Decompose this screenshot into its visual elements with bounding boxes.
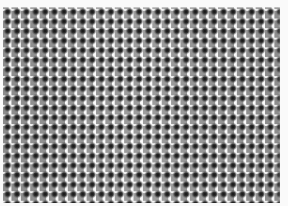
mesh-texture-image: [3, 7, 280, 203]
right-edge-margin: [278, 0, 288, 206]
top-edge-margin: [0, 0, 288, 9]
